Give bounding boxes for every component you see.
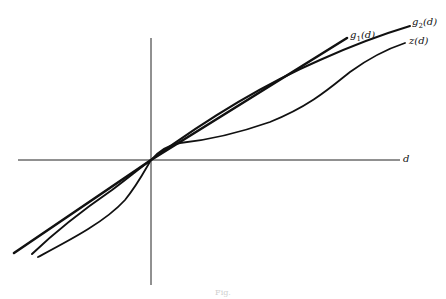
label-g1: g1(d) <box>350 30 375 43</box>
curve-z <box>38 43 405 257</box>
label-g2: g2(d) <box>412 17 437 30</box>
label-z: z(d) <box>409 36 429 46</box>
g1-arg: (d) <box>361 29 375 40</box>
z-arg: (d) <box>414 35 428 46</box>
curve-g2 <box>32 26 410 254</box>
figure-caption: Fig. <box>0 288 446 297</box>
diagram-canvas <box>0 0 446 299</box>
g2-arg: (d) <box>423 16 437 27</box>
label-axis-d: d <box>403 154 409 164</box>
